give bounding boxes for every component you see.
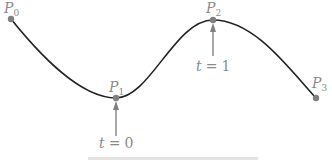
curve-diagram: P0 P1 P2 P3 t=0 t=1 <box>0 0 332 160</box>
label-p2: P2 <box>205 0 221 18</box>
label-t0: t=0 <box>99 135 133 151</box>
label-t1: t=1 <box>196 58 230 74</box>
label-p1: P1 <box>108 79 124 97</box>
label-p0: P0 <box>3 0 19 18</box>
spline-curve <box>11 19 316 98</box>
arrowhead-t0 <box>113 101 119 110</box>
clipped-caption <box>88 157 258 160</box>
arrowhead-t1 <box>210 23 216 32</box>
label-p3: P3 <box>311 75 327 93</box>
point-p3 <box>313 95 319 101</box>
